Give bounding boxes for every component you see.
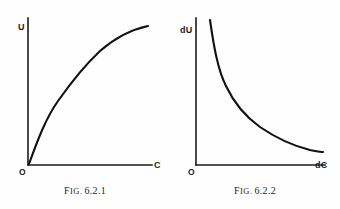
x-axis-label-dc: dC xyxy=(315,161,327,170)
x-axis-label-c: C xyxy=(154,161,161,170)
caption-prefix-rest-right: IG. xyxy=(240,187,252,196)
origin-label-right: O xyxy=(188,168,195,177)
y-axis-label-u: U xyxy=(18,23,25,32)
figure-panel-right: dU dC O FIG.6.2.2 xyxy=(170,0,340,209)
figure-caption-left: FIG.6.2.1 xyxy=(0,186,170,196)
total-utility-curve xyxy=(29,26,148,164)
caption-prefix-rest-left: IG. xyxy=(70,187,82,196)
y-axis-label-du: dU xyxy=(180,26,192,35)
figure-caption-right: FIG.6.2.2 xyxy=(170,186,340,196)
caption-prefix-left: FIG. xyxy=(64,187,83,196)
caption-prefix-right: FIG. xyxy=(234,187,253,196)
caption-number-right: 6.2.2 xyxy=(255,185,277,196)
plot-marginal-utility xyxy=(170,0,340,180)
marginal-utility-curve xyxy=(210,20,323,152)
figure-panel-left: U C O FIG.6.2.1 xyxy=(0,0,170,209)
origin-label-left: O xyxy=(19,168,26,177)
caption-number-left: 6.2.1 xyxy=(85,185,107,196)
plot-total-utility xyxy=(0,0,170,180)
figure-page: U C O FIG.6.2.1 dU dC O FIG.6.2.2 xyxy=(0,0,340,209)
